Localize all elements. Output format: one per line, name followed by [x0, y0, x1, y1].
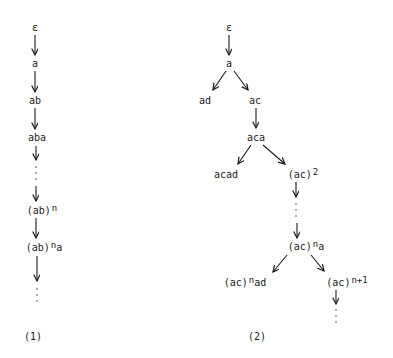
node-ac2: (ac)2 [288, 169, 319, 181]
node-acnad: (ac)nad [224, 277, 267, 289]
node-suffix: a [56, 242, 62, 253]
node-acn1: (ac)n+1 [326, 277, 367, 289]
node-a: a [32, 58, 38, 70]
node-abn: (ab)n [27, 205, 58, 217]
node-eps: ε [32, 22, 38, 34]
node-base: (ab) [26, 242, 50, 253]
node-ad: ad [199, 95, 211, 107]
node-abna: (ab)na [26, 242, 63, 254]
node-suffix: ad [254, 277, 266, 288]
node-exponent: n [51, 240, 56, 250]
node-aca: aca [247, 132, 265, 144]
edge-acna-acn1 [311, 255, 324, 271]
node-base: (ac) [326, 277, 350, 288]
node-base: (ac) [224, 277, 248, 288]
node-base: (ac) [288, 169, 312, 180]
node-suffix: a [318, 241, 324, 252]
node-exponent: n [52, 203, 57, 213]
node-ab: ab [29, 95, 41, 107]
node-acad: acad [214, 169, 238, 181]
node-base: (ab) [27, 205, 51, 216]
edges-layer [0, 0, 393, 358]
node-eps: ε [226, 22, 232, 34]
edge-a-ac [234, 71, 248, 90]
edge-aca-acad [238, 145, 251, 164]
node-exponent: n+1 [351, 275, 367, 285]
node-ac: ac [249, 95, 261, 107]
node-exponent: 2 [313, 167, 318, 177]
edge-acna-acnad [273, 255, 287, 272]
node-acna: (ac)na [288, 241, 325, 253]
node-base: (ac) [288, 241, 312, 252]
node-aba: aba [28, 132, 46, 144]
edge-a-ad [213, 71, 226, 90]
edge-aca-ac2 [263, 145, 285, 164]
node-a: a [226, 58, 232, 70]
caption-1: (1) [24, 331, 42, 342]
caption-2: (2) [248, 331, 266, 342]
node-exponent: n [313, 239, 318, 249]
node-exponent: n [249, 275, 254, 285]
